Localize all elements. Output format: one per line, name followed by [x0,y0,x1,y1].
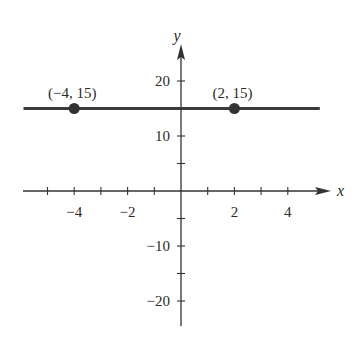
x-tick-label: 2 [231,204,239,220]
y-tick-label: 10 [155,128,170,144]
data-point [69,103,80,114]
data-point [229,103,240,114]
y-tick-label: 20 [155,73,170,89]
y-axis-title: y [171,27,181,45]
x-tick-label: 4 [284,204,292,220]
y-tick-label: −10 [147,238,170,254]
data-point-label: (2, 15) [212,85,252,102]
x-tick-label: −2 [120,204,136,220]
data-point-label: (−4, 15) [48,85,96,102]
chart: −4−2242010−10−20 (−4, 15)(2, 15) x y [0,0,359,344]
x-tick-label: −4 [66,204,82,220]
x-axis-title: x [336,182,344,199]
y-tick-label: −20 [147,293,170,309]
